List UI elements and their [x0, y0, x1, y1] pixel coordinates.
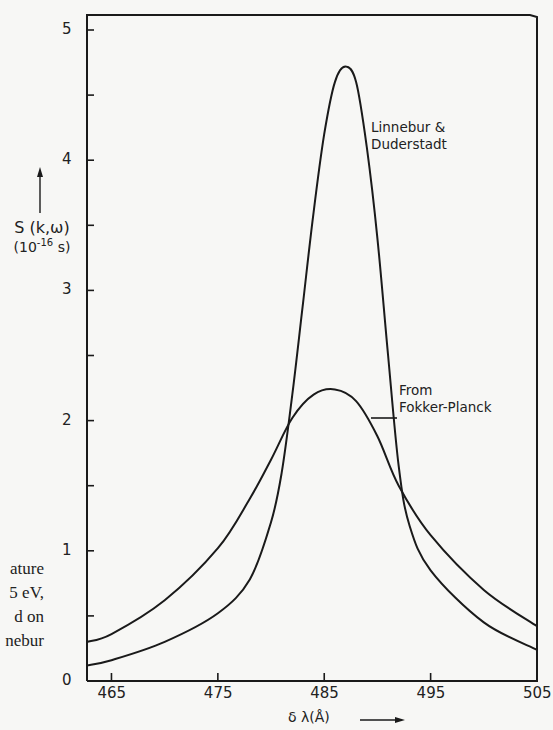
y-tick-label: 5: [62, 20, 72, 38]
data-curves: [87, 67, 537, 666]
y-tick-label: 0: [62, 671, 72, 689]
y-tick-label: 1: [62, 541, 72, 559]
clipped-caption-text: ature 5 eV, d on nebur: [0, 557, 44, 653]
y-axis-label: S (k,ω) (10-16 s): [4, 218, 80, 255]
x-tick-label: 465: [97, 684, 126, 702]
plot-frame: [87, 15, 537, 681]
y-tick-label: 3: [62, 280, 72, 298]
x-tick-label: 495: [417, 684, 446, 702]
fokker-planck-curve: [87, 389, 537, 642]
y-tick-label: 2: [62, 411, 72, 429]
y-axis-label-quantity: S (k,ω): [4, 218, 80, 237]
x-tick-label: 485: [310, 684, 339, 702]
x-axis-label: δ λ(Å): [288, 709, 330, 725]
x-tick-label: 505: [523, 684, 552, 702]
x-tick-label: 475: [204, 684, 233, 702]
annotation-fokker-planck: From Fokker-Planck: [399, 382, 492, 416]
plot-border: [87, 15, 537, 681]
plot-area: [0, 0, 553, 730]
y-axis-arrow-head: [37, 167, 43, 177]
y-tick-label: 4: [62, 150, 72, 168]
linnebur-duderstadt-curve: [87, 67, 537, 666]
y-axis-label-unit: (10-16 s): [4, 237, 80, 255]
annotation-linnebur-duderstadt: Linnebur & Duderstadt: [371, 119, 447, 153]
x-axis-arrow-head: [395, 717, 405, 723]
